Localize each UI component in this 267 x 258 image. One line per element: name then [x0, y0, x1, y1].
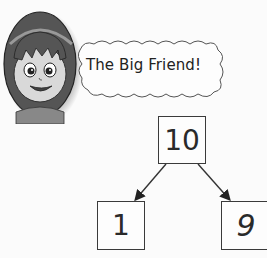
whole-number-value: 10: [164, 124, 200, 157]
part-right-box: 9: [221, 201, 267, 250]
arrow-right: [198, 164, 229, 199]
part-right-value: 9: [236, 208, 255, 243]
arrow-left: [136, 164, 166, 199]
part-left-value: 1: [112, 209, 130, 242]
whole-number-box: 10: [158, 116, 206, 164]
part-left-box: 1: [97, 201, 145, 250]
